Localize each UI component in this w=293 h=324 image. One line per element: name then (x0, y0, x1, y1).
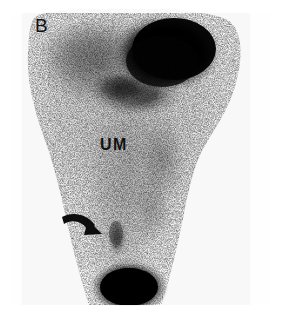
lesion-arrow-icon (60, 210, 112, 250)
scintigram-figure: B UM (0, 0, 293, 324)
plate-bottom-trim (12, 306, 270, 312)
region-label-um: UM (100, 137, 128, 153)
scan-plate (12, 9, 270, 312)
scintigram-image (12, 9, 270, 312)
panel-letter-b: B (35, 16, 48, 35)
